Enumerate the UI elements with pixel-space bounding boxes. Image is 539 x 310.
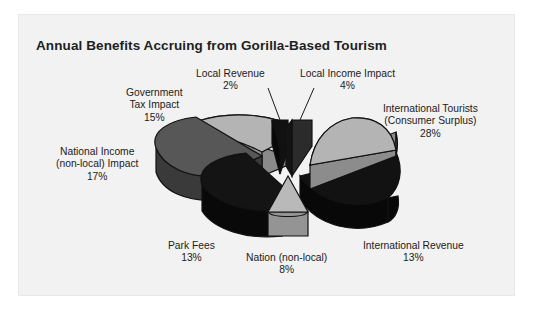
leader-line-local-revenue	[268, 88, 280, 120]
slice-local-income-impact[interactable]	[286, 120, 312, 176]
label-nation-non-local: Nation (non-local) 8%	[246, 252, 327, 277]
label-international-revenue: International Revenue 13%	[363, 240, 464, 265]
label-local-revenue: Local Revenue 2%	[196, 68, 265, 93]
label-local-income-impact: Local Income Impact 4%	[300, 68, 395, 93]
label-national-income-impact: National Income (non-local) Impact 17%	[56, 146, 138, 183]
label-international-tourists: International Tourists (Consumer Surplus…	[383, 103, 478, 140]
pie-chart-figure: Annual Benefits Accruing from Gorilla-Ba…	[0, 0, 539, 310]
label-government-tax-impact: Government Tax Impact 15%	[126, 87, 183, 124]
label-park-fees: Park Fees 13%	[168, 240, 215, 265]
